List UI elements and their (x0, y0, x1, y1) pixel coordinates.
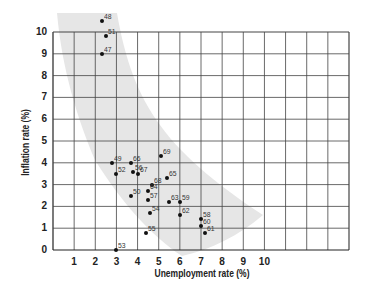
x-tick-label: 3 (108, 257, 124, 267)
data-point-label: 67 (140, 166, 148, 174)
x-tick-label: 9 (235, 257, 251, 267)
y-axis-label: Inflation rate (%) (20, 92, 31, 194)
x-axis-label: Unemployment rate (%) (151, 268, 253, 279)
y-tick-label: 10 (31, 27, 47, 37)
x-tick-label: 1 (66, 257, 82, 267)
data-point-label: 51 (108, 28, 116, 36)
y-tick-label: 8 (31, 71, 47, 81)
data-point-label: 69 (163, 148, 171, 156)
x-tick-label: 8 (214, 257, 230, 267)
x-tick-label: 5 (151, 257, 167, 267)
y-tick-label: 9 (31, 49, 47, 59)
data-point-label: 47 (104, 46, 112, 54)
y-tick-label: 4 (31, 158, 47, 168)
x-tick-label: 6 (172, 257, 188, 267)
data-point-label: 50 (133, 188, 141, 196)
phillips-curve-chart: 01234567891012345678910 4851474966525667… (0, 0, 366, 290)
data-point (136, 172, 140, 176)
data-point-label: 49 (114, 155, 122, 163)
data-point-label: 62 (182, 207, 190, 215)
x-tick-label: 7 (193, 257, 209, 267)
trend-band (57, 13, 263, 256)
y-tick-label: 0 (31, 245, 47, 255)
x-tick-label: 10 (256, 257, 272, 267)
data-point-label: 55 (148, 225, 156, 233)
data-point-label: 57 (150, 192, 158, 200)
plot-area (0, 0, 366, 290)
x-tick-label: 2 (87, 257, 103, 267)
data-point-label: 65 (169, 170, 177, 178)
y-tick-label: 1 (31, 223, 47, 233)
y-tick-label: 2 (31, 201, 47, 211)
data-point-label: 59 (182, 194, 190, 202)
x-tick-label: 4 (130, 257, 146, 267)
y-tick-label: 3 (31, 180, 47, 190)
y-tick-label: 5 (31, 136, 47, 146)
y-tick-label: 6 (31, 114, 47, 124)
data-point-label: 48 (104, 13, 112, 21)
data-point-label: 52 (118, 166, 126, 174)
data-point-label: 61 (207, 225, 215, 233)
data-point-label: 53 (118, 242, 126, 250)
data-point-label: 54 (152, 205, 160, 213)
y-tick-label: 7 (31, 92, 47, 102)
